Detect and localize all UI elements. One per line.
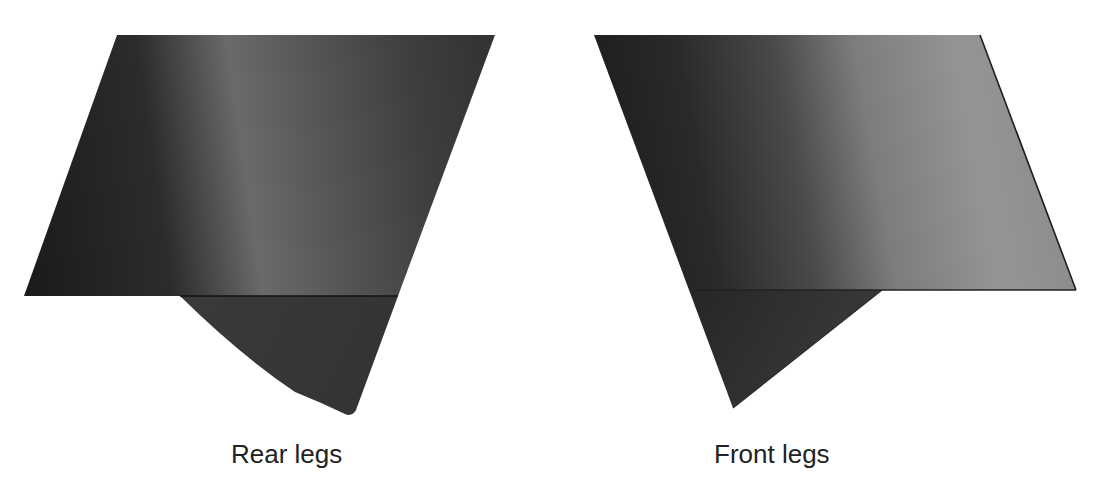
front-leg-upper-shape [594, 35, 1076, 290]
front-legs-panel [594, 35, 1076, 408]
leg-diagram-canvas [0, 0, 1098, 484]
rear-legs-caption: Rear legs [231, 441, 342, 467]
rear-legs-panel [24, 35, 495, 415]
rear-leg-upper-shape [24, 35, 495, 296]
front-leg-flap-shape [689, 290, 882, 408]
front-legs-caption: Front legs [714, 441, 830, 467]
rear-leg-flap-shape [180, 296, 398, 415]
